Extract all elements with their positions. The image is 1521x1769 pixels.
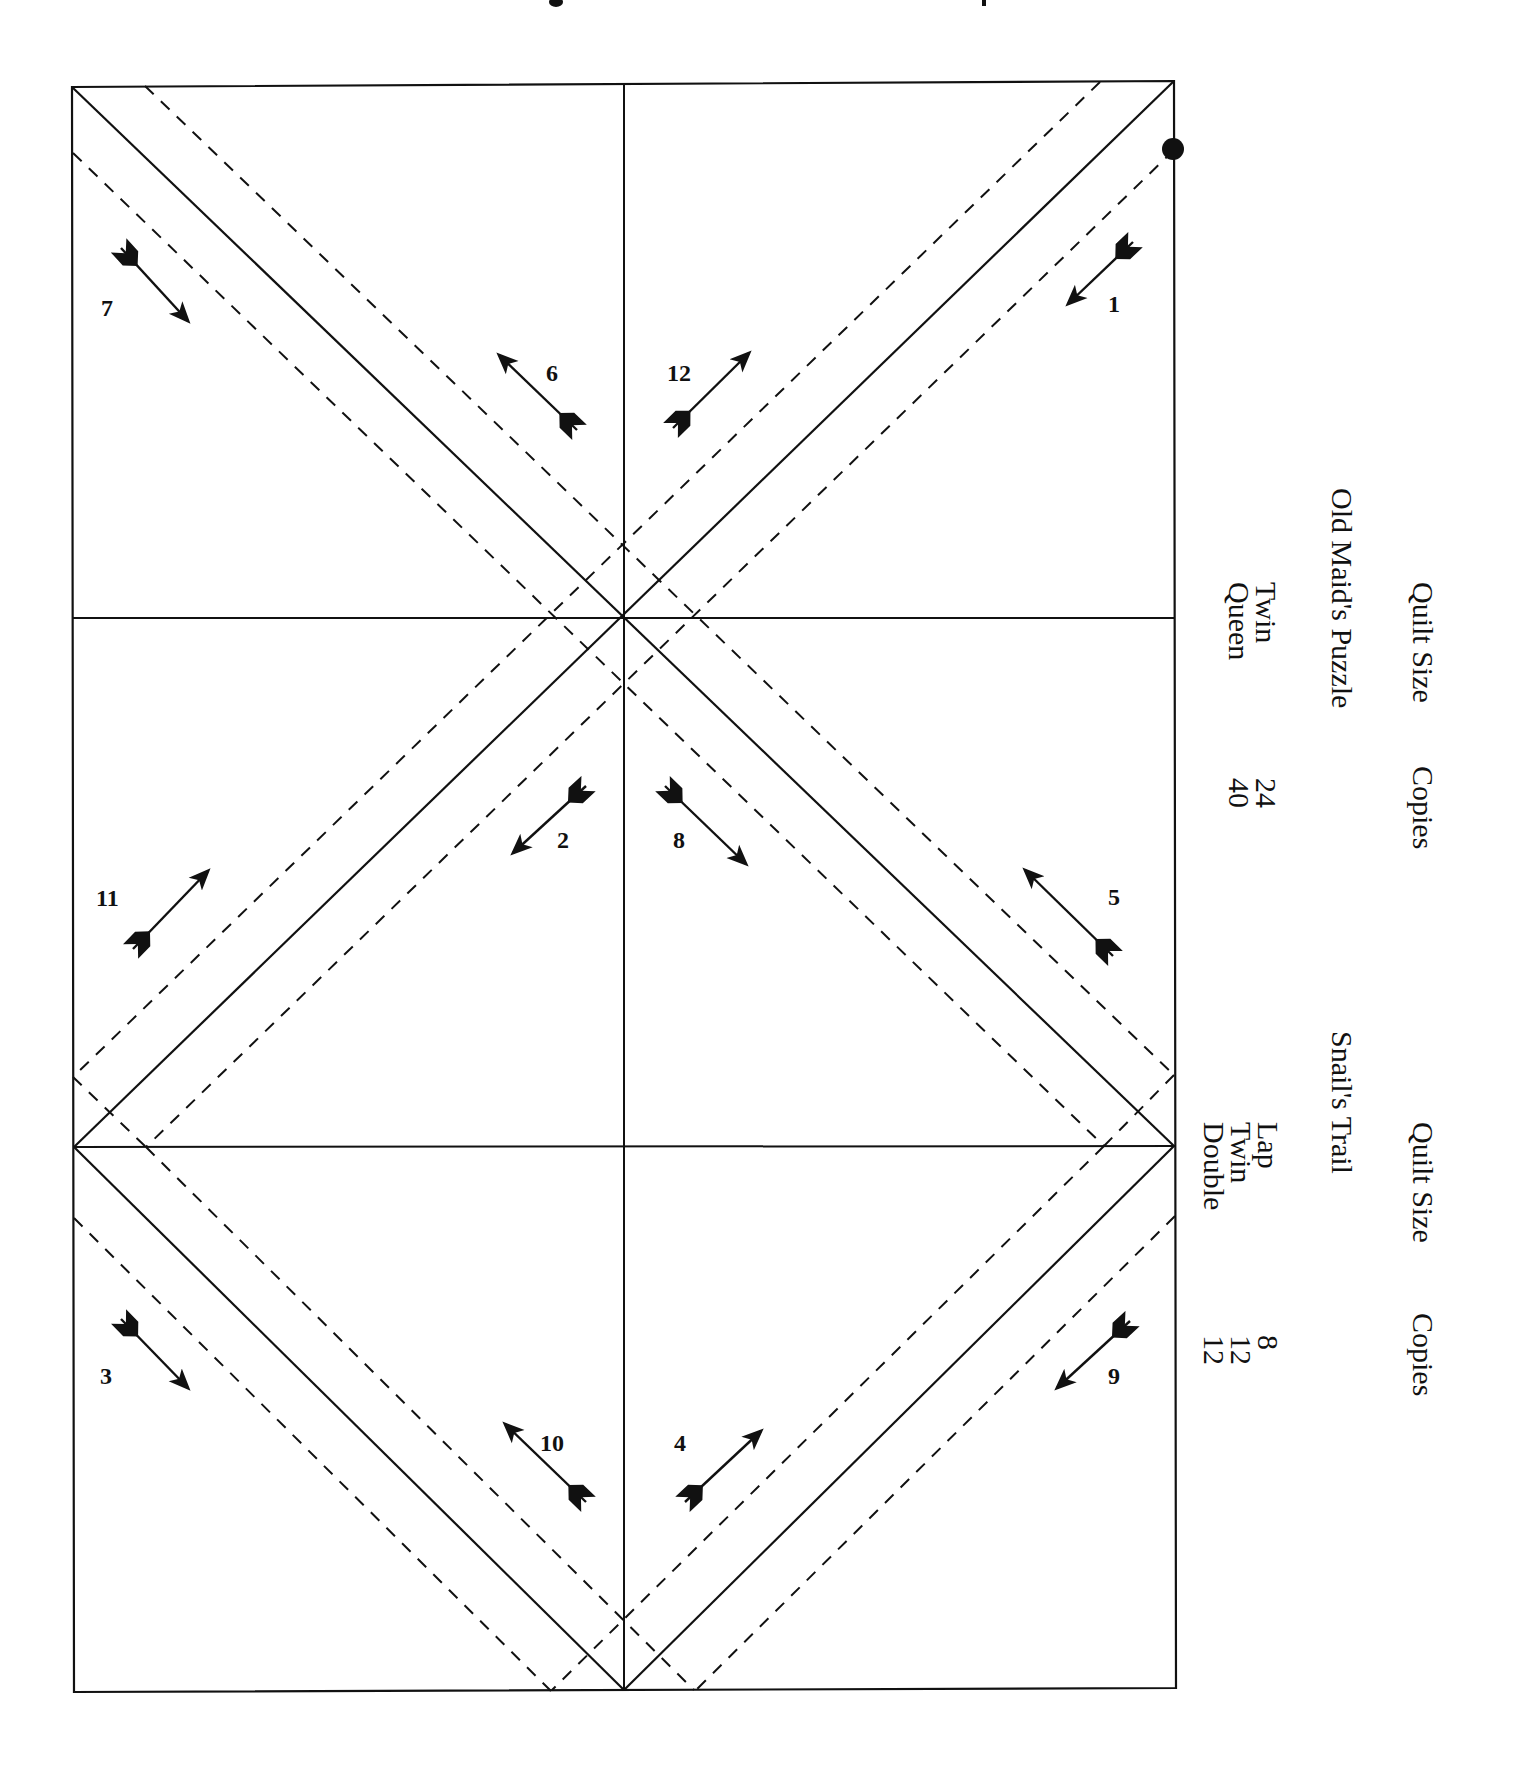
pattern-name: Snail's Trail	[1327, 1031, 1357, 1174]
piece-label-11: 11	[96, 885, 119, 911]
arrow-piece-2	[513, 786, 586, 853]
header-quilt-size: Quilt Size	[1408, 1122, 1438, 1243]
piece-label-12: 12	[667, 360, 691, 386]
piece-label-5: 5	[1108, 884, 1120, 910]
piece-label-6: 6	[546, 360, 558, 386]
arrow-piece-11	[133, 871, 208, 949]
arrow-piece-1	[1068, 242, 1133, 304]
cropped-title	[549, 0, 986, 7]
grid-lines	[73, 84, 1175, 1690]
piece-label-7: 7	[101, 295, 113, 321]
header-copies: Copies	[1408, 766, 1438, 849]
arrow-piece-7	[121, 248, 188, 321]
piece-label-8: 8	[673, 827, 685, 853]
size-list: Lap Twin Double	[1201, 1122, 1282, 1210]
piece-label-4: 4	[674, 1430, 686, 1456]
arrow-piece-3	[121, 1319, 188, 1388]
arrow-piece-6	[499, 355, 577, 430]
copies-list: 8 12 12	[1201, 1335, 1282, 1365]
piece-label-1: 1	[1108, 291, 1120, 317]
piece-label-10: 10	[540, 1430, 564, 1456]
arrow-piece-4	[685, 1431, 761, 1502]
piece-label-2: 2	[557, 827, 569, 853]
pattern-name: Old Maid's Puzzle	[1327, 488, 1357, 708]
header-quilt-size: Quilt Size	[1408, 582, 1438, 703]
registration-dot	[1162, 138, 1184, 160]
piece-labels: 1 2 3 4 5 6 7 8 9 10 11 12	[96, 291, 1120, 1456]
size-list: Twin Queen	[1226, 582, 1280, 660]
piece-label-3: 3	[100, 1363, 112, 1389]
copies-list: 24 40	[1226, 778, 1280, 808]
quilt-foundation-diagram: 1 2 3 4 5 6 7 8 9 10 11 12	[0, 0, 1521, 1769]
grain-arrows	[121, 242, 1133, 1502]
piece-label-9: 9	[1108, 1363, 1120, 1389]
header-copies: Copies	[1408, 1313, 1438, 1396]
